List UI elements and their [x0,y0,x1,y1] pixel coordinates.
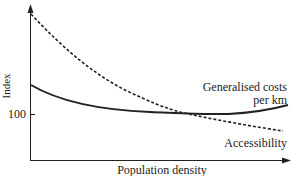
series-accessibility-label: Accessibility [224,136,287,150]
x-axis-arrow-icon [282,158,291,164]
x-axis-label: Population density [117,163,207,176]
y-axis-label: Index [0,73,12,99]
series-generalised-costs-label-line2: per km [253,93,287,107]
chart: 100 Index Population density Generalised… [0,0,292,176]
y-tick-label-100: 100 [8,107,26,121]
y-axis-arrow-icon [28,4,34,13]
series-generalised-costs-label-line1: Generalised costs [203,80,288,94]
